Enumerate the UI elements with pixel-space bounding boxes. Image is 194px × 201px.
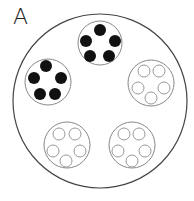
filled-dot [40, 60, 52, 72]
group-bottom-right [109, 122, 155, 168]
filled-dot [103, 50, 115, 62]
filled-dot [28, 72, 40, 84]
empty-dot [153, 65, 165, 77]
filled-dot [94, 24, 106, 36]
group-bottom-left [44, 122, 90, 168]
empty-dot [139, 145, 151, 157]
group-right [128, 60, 174, 106]
empty-dot [112, 145, 124, 157]
filled-dot [49, 88, 61, 100]
dot-groups [25, 21, 174, 168]
empty-dot [53, 128, 65, 140]
empty-dot [74, 145, 86, 157]
empty-dot [47, 145, 59, 157]
empty-dot [138, 65, 150, 77]
filled-dot [80, 35, 92, 47]
filled-dot [55, 72, 67, 84]
empty-dot [145, 92, 157, 104]
empty-dot [132, 82, 144, 94]
group-top [78, 21, 122, 65]
empty-dot [133, 128, 145, 140]
empty-dot [158, 82, 170, 94]
filled-dot [109, 35, 121, 47]
empty-dot [60, 155, 72, 167]
empty-dot [69, 128, 81, 140]
filled-dot [84, 50, 96, 62]
diagram-canvas [0, 0, 194, 201]
empty-dot [126, 155, 138, 167]
filled-dot [34, 88, 46, 100]
group-left [25, 59, 71, 105]
empty-dot [118, 128, 130, 140]
outer-circle [13, 14, 187, 188]
